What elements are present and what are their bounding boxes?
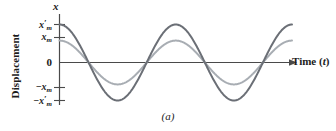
tick-label-neg-x-m: −xm [12,82,52,94]
x-axis-title: Time (t) [292,55,329,67]
tick-label-x-m: xm [18,32,52,44]
tick-label-zero: 0 [18,56,52,68]
figure-caption: (a) [0,110,336,122]
tick-label-neg-x-prime-m-base: −x [33,95,44,106]
y-axis-symbol-label: x [53,0,59,12]
tick-label-neg-x-prime-m-sub: m [47,100,52,108]
figure-container: x Displacement Time (t) x′m xm 0 −xm −x′… [0,0,336,131]
tick-label-x-m-sub: m [47,36,52,44]
x-axis-title-main: Time ( [292,55,323,67]
tick-label-x-prime-m-sub: m [47,24,52,32]
tick-label-neg-x-prime-m: −x′m [12,95,52,108]
x-axis-title-end: ) [326,55,330,67]
tick-label-neg-x-m-sub: m [47,86,52,94]
tick-label-neg-x-m-base: −x [35,81,46,92]
